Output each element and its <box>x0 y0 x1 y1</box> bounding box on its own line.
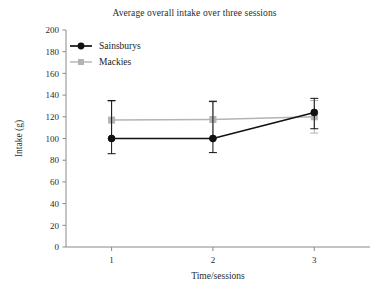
data-point-marker <box>210 135 217 142</box>
y-axis-tick-label: 160 <box>46 69 60 79</box>
y-axis-tick-label: 80 <box>50 155 60 165</box>
y-axis-tick-label: 140 <box>46 90 60 100</box>
y-axis: 020406080100120140160180200 <box>46 25 67 252</box>
legend-item-mackies: Mackies <box>70 57 131 67</box>
legend-item-label: Mackies <box>99 57 131 67</box>
legend-marker-circle-icon <box>78 43 85 50</box>
x-axis-tick-label: 3 <box>312 255 317 265</box>
data-series-group <box>108 98 319 153</box>
y-axis-tick-label: 60 <box>50 177 60 187</box>
y-axis-tick-label: 180 <box>46 47 60 57</box>
legend-marker-square-icon <box>78 59 84 65</box>
y-axis-tick-label: 20 <box>50 221 60 231</box>
data-point-marker <box>311 109 318 116</box>
x-axis: 123 <box>66 247 370 265</box>
y-axis-tick-label: 200 <box>46 25 60 35</box>
y-axis-tick-label: 120 <box>46 112 60 122</box>
legend-item-sainsburys: Sainsburys <box>70 41 141 51</box>
data-point-marker <box>108 135 115 142</box>
y-axis-tick-label: 40 <box>50 199 60 209</box>
chart-container: Average overall intake over three sessio… <box>0 0 389 291</box>
series-sainsburys <box>108 98 319 153</box>
x-axis-title: Time/sessions <box>191 271 245 281</box>
chart-legend: SainsburysMackies <box>70 41 141 67</box>
y-axis-title: Intake (g) <box>14 120 25 157</box>
y-axis-tick-label: 0 <box>55 242 60 252</box>
x-axis-tick-label: 2 <box>211 255 216 265</box>
legend-item-label: Sainsburys <box>99 41 141 51</box>
chart-plot-area: 020406080100120140160180200 123 Sainsbur… <box>0 0 389 291</box>
y-axis-tick-label: 100 <box>46 134 60 144</box>
x-axis-tick-label: 1 <box>109 255 114 265</box>
